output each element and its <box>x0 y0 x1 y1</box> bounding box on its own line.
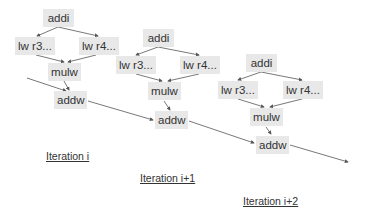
node-addw-iter-i: addw <box>54 91 87 109</box>
node-addw-iter-i1: addw <box>155 111 188 129</box>
node-addi-iter-i: addi <box>43 9 74 27</box>
iteration-label-i1: Iteration i+1 <box>140 172 195 184</box>
node-lw-r4-iter-i1: lw r4... <box>180 56 220 74</box>
node-lw-r4-iter-i2: lw r4... <box>283 81 323 99</box>
node-lw-r3-iter-i1: lw r3... <box>116 56 156 74</box>
node-mulw-iter-i1: mulw <box>148 82 181 100</box>
iteration-label-i2: Iteration i+2 <box>243 195 298 207</box>
node-lw-r3-iter-i2: lw r3... <box>218 81 258 99</box>
node-addi-iter-i1: addi <box>143 29 174 47</box>
iteration-label-i: Iteration i <box>46 150 89 162</box>
node-lw-r3-iter-i: lw r3... <box>15 37 55 55</box>
node-addi-iter-i2: addi <box>246 54 277 72</box>
node-addw-iter-i2: addw <box>256 136 289 154</box>
node-mulw-iter-i2: mulw <box>250 108 283 126</box>
node-lw-r4-iter-i: lw r4... <box>79 37 119 55</box>
node-mulw-iter-i: mulw <box>48 63 81 81</box>
